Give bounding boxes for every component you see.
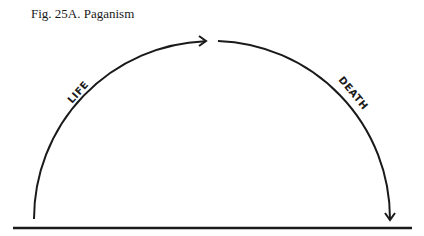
death-label: DEATH bbox=[336, 74, 370, 112]
life-death-arc-diagram: LIFE DEATH bbox=[0, 0, 424, 236]
death-arc bbox=[218, 41, 390, 219]
life-arc bbox=[34, 41, 205, 219]
